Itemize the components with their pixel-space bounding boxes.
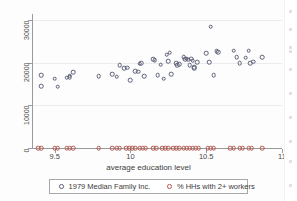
- data-point: [55, 146, 60, 151]
- data-point: [52, 76, 57, 81]
- data-point: [96, 74, 101, 79]
- page-edge-artifact: [284, 0, 297, 201]
- data-point: [192, 65, 197, 70]
- data-point: [71, 146, 76, 151]
- legend-label: 1979 Median Family Inc.: [69, 183, 151, 191]
- data-point: [154, 146, 159, 151]
- data-point: [260, 55, 265, 60]
- data-point: [243, 56, 248, 61]
- data-point: [246, 48, 251, 53]
- legend-item-pct-hh-2plus-workers: % HHs with 2+ workers: [167, 183, 254, 191]
- y-tick-label: 30000: [23, 20, 30, 46]
- data-point: [166, 59, 171, 64]
- page-edge-mark: [289, 116, 292, 119]
- data-point: [207, 60, 212, 65]
- data-point: [55, 84, 60, 89]
- data-point: [39, 73, 44, 78]
- page-edge-mark: [289, 160, 292, 163]
- data-point: [118, 146, 123, 151]
- data-point: [216, 50, 221, 55]
- page-edge-mark: [289, 28, 292, 31]
- page-edge-mark: [289, 68, 292, 71]
- x-axis-title: average education level: [0, 163, 297, 172]
- data-point: [212, 73, 217, 78]
- legend-item-median-family-income: 1979 Median Family Inc.: [59, 183, 150, 191]
- data-point: [204, 51, 209, 56]
- legend-label: % HHs with 2+ workers: [177, 183, 255, 191]
- data-point: [195, 60, 200, 65]
- data-point: [169, 72, 174, 77]
- open-circle-icon: [59, 184, 64, 189]
- data-point: [139, 61, 144, 66]
- data-point: [251, 59, 256, 64]
- data-point: [143, 146, 148, 151]
- data-point: [158, 62, 163, 67]
- data-point: [128, 78, 133, 83]
- page-edge-mark: [289, 140, 292, 143]
- data-point: [168, 50, 173, 55]
- data-point: [177, 62, 182, 67]
- page-edge-mark: [289, 46, 292, 49]
- page-edge-mark: [289, 92, 292, 95]
- data-point: [136, 70, 141, 75]
- page-edge-mark: [289, 184, 292, 187]
- data-point: [231, 48, 236, 53]
- data-point: [142, 74, 147, 79]
- y-tick-label: 20000: [23, 63, 30, 89]
- data-point: [234, 55, 239, 60]
- chart-figure: 0100002000030000 9.51010.511 average edu…: [0, 0, 297, 201]
- x-tick-label: 9.5: [50, 153, 60, 161]
- data-point: [249, 146, 254, 151]
- x-tick-label: 10: [126, 153, 134, 161]
- y-tick-label: 10000: [23, 105, 30, 131]
- data-point: [260, 146, 265, 151]
- data-point: [212, 146, 217, 151]
- x-tick-label: 10.5: [199, 153, 214, 161]
- data-point: [208, 24, 213, 29]
- open-circle-icon: [167, 184, 172, 189]
- data-point: [240, 146, 245, 151]
- data-point: [115, 74, 120, 79]
- plot-area: [32, 14, 282, 148]
- chart-legend: 1979 Median Family Inc. % HHs with 2+ wo…: [49, 179, 248, 194]
- data-point: [152, 58, 157, 63]
- page-edge-mark: [289, 10, 292, 13]
- data-point: [237, 61, 242, 66]
- data-point: [71, 70, 76, 75]
- data-point: [231, 146, 236, 151]
- data-point: [39, 146, 44, 151]
- data-point: [125, 65, 130, 70]
- page-edge-mark: [289, 50, 292, 53]
- data-point: [39, 84, 44, 89]
- data-point: [155, 73, 160, 78]
- data-point: [196, 146, 201, 151]
- data-point: [162, 76, 167, 81]
- data-point: [96, 146, 101, 151]
